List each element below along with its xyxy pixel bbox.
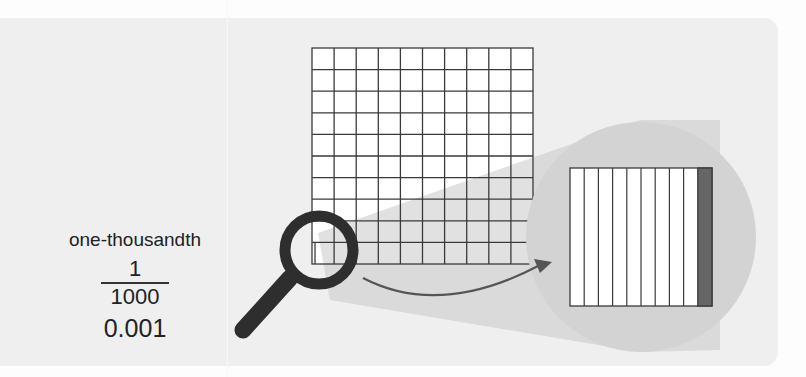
number-word: one-thousandth — [40, 228, 230, 252]
decimal-value: 0.001 — [40, 313, 230, 343]
magnified-square — [570, 168, 712, 306]
fraction-denominator: 1000 — [101, 285, 169, 309]
thousandth-label: one-thousandth 1 1000 0.001 — [40, 228, 230, 343]
fraction-numerator: 1 — [101, 258, 169, 280]
shaded-thousandth-strip — [698, 168, 712, 306]
fraction: 1 1000 — [101, 258, 169, 309]
